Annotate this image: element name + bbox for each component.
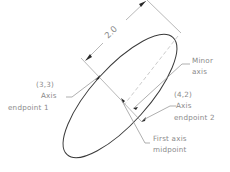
first-axis-line <box>81 58 141 121</box>
ellipse-axis-diagram: 2.0 (3,3) Axis endpoint 1 Minor axis (4,… <box>0 0 230 172</box>
endpoint-2-coord: (4,2) <box>174 90 192 99</box>
dimension-label: 2.0 <box>102 24 119 41</box>
endpoint-2-label-line1: Axis <box>176 101 192 110</box>
extension-line-top <box>147 0 181 33</box>
midpoint-label-line2: midpoint <box>153 145 187 154</box>
dimension-arrow-upper <box>139 1 146 7</box>
leader-endpoint-2 <box>143 106 176 120</box>
diagram-svg: 2.0 (3,3) Axis endpoint 1 Minor axis (4,… <box>0 0 230 172</box>
minor-axis-label-line2: axis <box>192 67 207 76</box>
minor-axis-dashed <box>124 36 178 105</box>
leader-endpoint-1 <box>66 78 97 97</box>
endpoint-2-label-line2: endpoint 2 <box>174 113 215 122</box>
endpoint-1-label-line1: Axis <box>41 91 57 100</box>
midpoint-label-line1: First axis <box>153 134 187 143</box>
leader-midpoint <box>122 101 150 143</box>
minor-axis-label-line1: Minor <box>192 56 213 65</box>
endpoint-1-label-line2: endpoint 1 <box>8 103 49 112</box>
endpoint-1-coord: (3,3) <box>36 80 54 89</box>
minor-axis-end-marker <box>133 107 138 110</box>
